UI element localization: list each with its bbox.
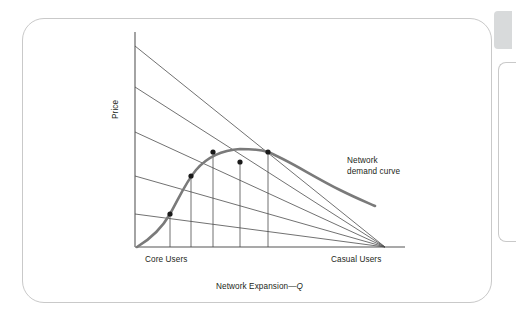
- curve-label-line-1: Network: [347, 155, 400, 166]
- fan-line-1: [135, 46, 385, 247]
- x-axis-label-variable: Q: [297, 282, 303, 291]
- x-axis-label: Network Expansion—Q: [216, 282, 303, 291]
- curve-label-line-2: demand curve: [347, 166, 400, 177]
- tangency-point-3: [210, 149, 215, 154]
- casual-users-label: Casual Users: [331, 255, 381, 264]
- y-axis-label: Price: [111, 100, 120, 119]
- tangency-point-2: [188, 173, 193, 178]
- network-demand-curve-label: Network demand curve: [347, 155, 400, 177]
- x-axis-label-text: Network Expansion—: [216, 282, 297, 291]
- network-demand-curve: [137, 149, 375, 247]
- fan-line-5: [135, 214, 385, 247]
- core-users-label: Core Users: [145, 255, 187, 264]
- tangency-point-4: [237, 159, 242, 164]
- fan-lines-group: [135, 46, 385, 247]
- tangency-point-1: [167, 211, 172, 216]
- tangency-points-group: [167, 149, 270, 216]
- tangency-point-5: [265, 149, 270, 154]
